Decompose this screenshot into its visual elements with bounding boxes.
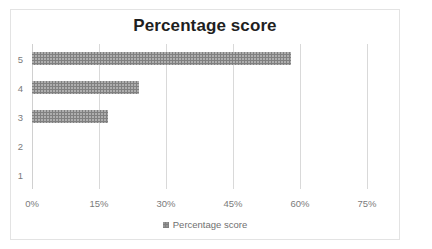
x-axis-tick-15: 15% [89, 198, 108, 209]
y-axis-tick-2: 2 [18, 140, 23, 151]
x-axis-tick-0: 0% [25, 198, 39, 209]
y-axis-tick-1: 1 [18, 169, 23, 180]
x-axis-tick-60: 60% [290, 198, 309, 209]
y-axis-tick-5: 5 [18, 53, 23, 64]
bars-layer [32, 44, 387, 189]
chart-legend[interactable]: Percentage score [11, 219, 399, 230]
x-axis-tick-45: 45% [223, 198, 242, 209]
legend-label: Percentage score [173, 219, 247, 230]
legend-swatch-icon [163, 222, 169, 228]
plot-area: 5 4 3 2 1 0% 15% 30% 45% 60 [32, 44, 387, 189]
bar-row-2 [32, 139, 387, 152]
bar-row-4 [32, 81, 387, 94]
chart-title: Percentage score [11, 16, 399, 36]
bar-category-3[interactable] [32, 110, 108, 123]
bar-category-5[interactable] [32, 52, 291, 65]
bar-row-1 [32, 168, 387, 181]
bar-row-3 [32, 110, 387, 123]
x-axis-tick-30: 30% [156, 198, 175, 209]
chart-container: Percentage score 5 4 3 2 1 [10, 9, 400, 240]
y-axis-tick-3: 3 [18, 111, 23, 122]
y-axis-tick-4: 4 [18, 82, 23, 93]
bar-category-4[interactable] [32, 81, 139, 94]
x-axis-tick-75: 75% [357, 198, 376, 209]
bar-row-5 [32, 52, 387, 65]
